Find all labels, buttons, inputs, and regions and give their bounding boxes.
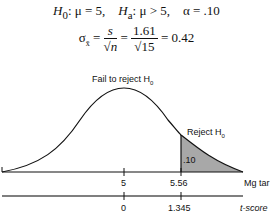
t-tick-label-0: 0: [121, 203, 126, 213]
fail-sub: 0: [150, 80, 153, 86]
alpha-area-label: .10: [183, 155, 196, 165]
normal-curve-diagram: [0, 0, 273, 216]
fail-to-reject-label: Fail to reject H0: [92, 74, 153, 86]
reject-label: Reject H0: [187, 127, 225, 139]
axis-label-mg-tar: Mg tar: [244, 178, 270, 188]
tick-label-556: 5.56: [170, 178, 188, 188]
rejection-region: [181, 135, 243, 172]
reject-text: Reject H: [187, 127, 222, 137]
reject-sub: 0: [222, 133, 225, 139]
tick-label-5: 5: [121, 178, 126, 188]
fail-text: Fail to reject H: [92, 74, 150, 84]
t-tick-label-1345: 1.345: [168, 203, 191, 213]
axis-label-t-score: t-score: [240, 203, 268, 213]
